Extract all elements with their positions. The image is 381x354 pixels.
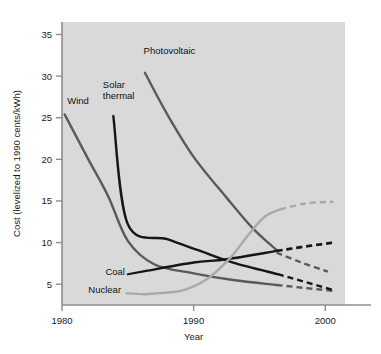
y-tick-label-30: 30 <box>41 71 52 82</box>
y-tick-label-35: 35 <box>41 29 52 40</box>
y-tick-label-20: 20 <box>41 154 52 165</box>
chart-figure: 5101520253035198019902000 WindSolartherm… <box>0 0 381 354</box>
y-tick-label-15: 15 <box>41 195 52 206</box>
x-tick-label-1980: 1980 <box>51 315 72 326</box>
x-axis-title: Year <box>184 331 203 342</box>
series-label-nuclear: Nuclear <box>88 284 121 295</box>
leader-line <box>126 293 143 294</box>
y-axis-title: Cost (levelized to 1990 cents/kWh) <box>11 90 22 237</box>
series-label-coal: Coal <box>105 266 125 277</box>
x-tick-label-1990: 1990 <box>183 315 204 326</box>
series-label-photovoltaic: Photovoltaic <box>144 45 196 56</box>
series-label-wind: Wind <box>67 95 89 106</box>
y-tick-label-10: 10 <box>41 237 52 248</box>
x-tick-label-2000: 2000 <box>315 315 336 326</box>
energy-cost-line-chart: 5101520253035198019902000 WindSolartherm… <box>0 0 381 354</box>
y-tick-label-5: 5 <box>47 279 52 290</box>
y-tick-label-25: 25 <box>41 112 52 123</box>
